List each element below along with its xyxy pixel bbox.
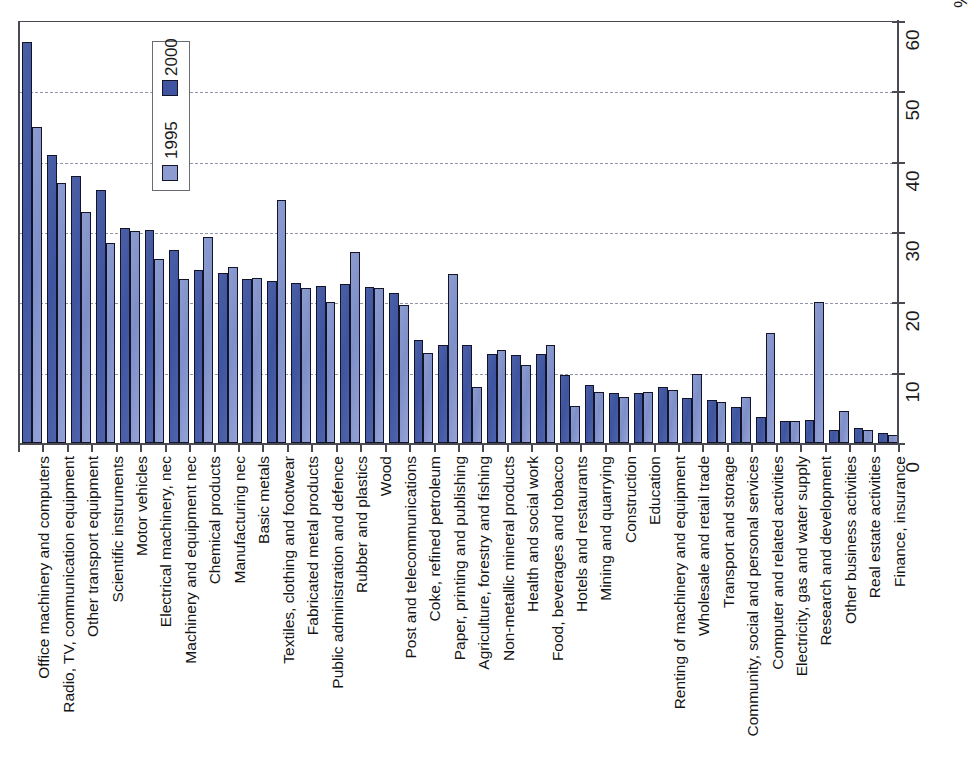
bar-2000 bbox=[267, 281, 277, 443]
category-label: Finance, insurance bbox=[892, 456, 908, 587]
category-label: Office machinery and computers bbox=[36, 456, 52, 679]
legend-swatch-2000 bbox=[162, 80, 178, 96]
category-tick bbox=[385, 443, 387, 452]
category-label: Renting of machinery and equipment bbox=[672, 456, 688, 709]
category-label: Electricity, gas and water supply bbox=[794, 456, 810, 676]
legend: 2000 1995 bbox=[152, 41, 190, 191]
category-tick bbox=[458, 443, 460, 452]
bar-2000 bbox=[96, 190, 106, 443]
category-label: Fabricated metal products bbox=[305, 456, 321, 635]
bar-1995 bbox=[106, 243, 116, 443]
category-label: Paper, printing and publishing bbox=[452, 456, 468, 660]
category-tick bbox=[238, 443, 240, 452]
bar-2000 bbox=[47, 155, 57, 443]
bar-1995 bbox=[399, 305, 409, 443]
bar-1995 bbox=[814, 302, 824, 443]
category-label: Community, social and personal services bbox=[745, 456, 761, 737]
legend-label-1995: 1995 bbox=[163, 121, 180, 159]
bar-2000 bbox=[340, 284, 350, 443]
category-tick bbox=[531, 443, 533, 452]
bar-1995 bbox=[497, 350, 507, 443]
bar-2000 bbox=[291, 283, 301, 443]
category-tick bbox=[262, 443, 264, 452]
bar-2000 bbox=[585, 385, 595, 443]
category-label: Hotels and restaurants bbox=[574, 456, 590, 612]
category-tick bbox=[482, 443, 484, 452]
bar-1995 bbox=[643, 392, 653, 443]
bar-2000 bbox=[731, 407, 741, 443]
bar-1995 bbox=[717, 402, 727, 443]
category-tick bbox=[165, 443, 167, 452]
bar-2000 bbox=[609, 393, 619, 443]
bar-1995 bbox=[863, 430, 873, 443]
category-label: Transport and storage bbox=[721, 456, 737, 608]
bar-2000 bbox=[536, 354, 546, 443]
category-label: Education bbox=[647, 456, 663, 525]
bar-2000 bbox=[22, 42, 32, 443]
bar-1995 bbox=[179, 279, 189, 443]
legend-label-2000: 2000 bbox=[163, 38, 180, 76]
bar-2000 bbox=[414, 340, 424, 443]
bar-2000 bbox=[658, 387, 668, 443]
chart-figure: 2000 1995 0102030405060 % Office machine… bbox=[0, 0, 978, 772]
category-tick bbox=[825, 443, 827, 452]
bar-1995 bbox=[570, 406, 580, 443]
bar-2000 bbox=[120, 228, 130, 443]
category-tick bbox=[214, 443, 216, 452]
category-label: Computer and related activities bbox=[770, 456, 786, 670]
bar-2000 bbox=[194, 270, 204, 443]
bar-1995 bbox=[203, 237, 213, 443]
bar-1995 bbox=[423, 353, 433, 443]
bar-1995 bbox=[594, 392, 604, 443]
category-tick bbox=[605, 443, 607, 452]
category-label: Real estate activities bbox=[867, 456, 883, 598]
category-label: Construction bbox=[623, 456, 639, 543]
category-tick bbox=[91, 443, 93, 452]
bar-1995 bbox=[766, 333, 776, 443]
bar-2000 bbox=[365, 287, 375, 443]
bar-1995 bbox=[374, 288, 384, 443]
bar-2000 bbox=[829, 430, 839, 443]
category-tick bbox=[189, 443, 191, 452]
bar-2000 bbox=[218, 273, 228, 443]
category-tick bbox=[654, 443, 656, 452]
bar-2000 bbox=[878, 433, 888, 443]
bar-1995 bbox=[692, 374, 702, 443]
category-tick bbox=[776, 443, 778, 452]
legend-entry-1995: 1995 bbox=[153, 115, 189, 190]
category-tick bbox=[727, 443, 729, 452]
bar-2000 bbox=[756, 417, 766, 443]
bar-1995 bbox=[130, 231, 140, 443]
bar-1995 bbox=[790, 421, 800, 443]
value-tick-label-60: 60 bbox=[903, 11, 922, 51]
category-label: Health and social work bbox=[525, 456, 541, 612]
category-tick bbox=[507, 443, 509, 452]
category-tick bbox=[434, 443, 436, 452]
bar-2000 bbox=[780, 421, 790, 444]
bar-2000 bbox=[169, 250, 179, 443]
bar-1995 bbox=[668, 390, 678, 443]
bar-1995 bbox=[277, 200, 287, 443]
category-tick bbox=[140, 443, 142, 452]
legend-entry-2000: 2000 bbox=[153, 42, 189, 117]
bar-1995 bbox=[546, 345, 556, 443]
bar-1995 bbox=[301, 288, 311, 443]
bar-1995 bbox=[839, 411, 849, 443]
category-label: Motor vehicles bbox=[134, 456, 150, 556]
category-label: Mining and quarrying bbox=[598, 456, 614, 601]
category-label: Post and telecommunications bbox=[403, 456, 419, 658]
bar-1995 bbox=[252, 278, 262, 443]
value-tick-label-40: 40 bbox=[903, 151, 922, 191]
bar-2000 bbox=[682, 398, 692, 443]
bar-2000 bbox=[707, 400, 717, 443]
bar-2000 bbox=[438, 345, 448, 443]
category-label: Public administration and defence bbox=[330, 456, 346, 689]
value-tick-label-50: 50 bbox=[903, 81, 922, 121]
value-tick-label-30: 30 bbox=[903, 222, 922, 262]
bar-2000 bbox=[805, 420, 815, 443]
bar-2000 bbox=[634, 393, 644, 443]
plot-area bbox=[18, 21, 898, 443]
category-tick bbox=[556, 443, 558, 452]
category-label: Other business activities bbox=[843, 456, 859, 624]
bar-2000 bbox=[389, 293, 399, 443]
